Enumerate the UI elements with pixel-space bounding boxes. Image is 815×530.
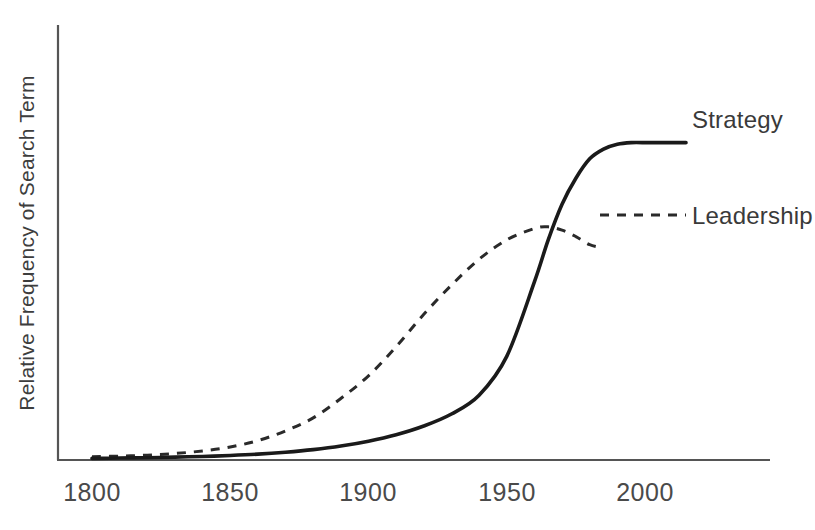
x-tick-label-2000: 2000 [616,478,674,506]
chart-container: Strategy Leadership 1800 1850 1900 1950 … [0,0,815,530]
x-tick-label-1950: 1950 [478,478,536,506]
x-tick-label-1800: 1800 [63,478,121,506]
series-label-strategy: Strategy [692,106,783,133]
x-tick-label-1850: 1850 [201,478,259,506]
line-chart: Strategy Leadership 1800 1850 1900 1950 … [0,0,815,530]
x-tick-label-1900: 1900 [339,478,397,506]
series-label-leadership: Leadership [692,202,813,229]
y-axis-title: Relative Frequency of Search Term [15,75,38,410]
chart-background [0,0,815,530]
